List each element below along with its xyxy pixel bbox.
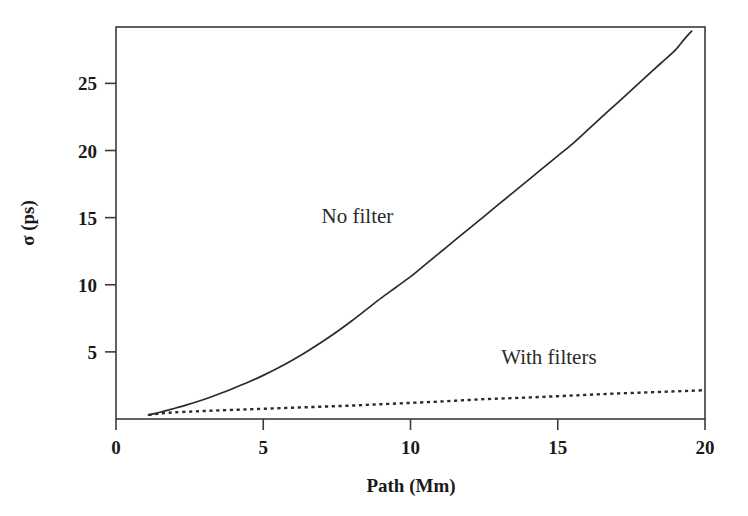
x-axis-title: Path (Mm) bbox=[366, 475, 455, 497]
x-tick-label: 0 bbox=[111, 437, 121, 458]
y-tick-label: 25 bbox=[78, 73, 97, 94]
y-tick-label: 10 bbox=[78, 275, 97, 296]
y-axis-title: σ (ps) bbox=[17, 200, 39, 246]
x-tick-label: 10 bbox=[401, 437, 420, 458]
series-label-with-filters: With filters bbox=[501, 345, 596, 369]
y-tick-label: 5 bbox=[88, 342, 98, 363]
x-tick-label: 5 bbox=[259, 437, 269, 458]
series-label-no-filter: No filter bbox=[322, 204, 394, 228]
y-tick-label: 15 bbox=[78, 208, 97, 229]
x-tick-label: 20 bbox=[696, 437, 715, 458]
y-tick-label: 20 bbox=[78, 141, 97, 162]
x-tick-label: 15 bbox=[548, 437, 567, 458]
line-chart: 05101520 510152025 No filterWith filters… bbox=[0, 0, 748, 516]
chart-page: 05101520 510152025 No filterWith filters… bbox=[0, 0, 748, 516]
